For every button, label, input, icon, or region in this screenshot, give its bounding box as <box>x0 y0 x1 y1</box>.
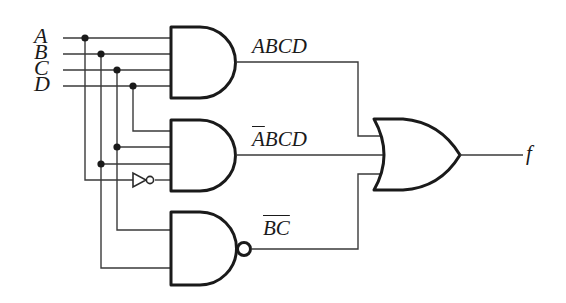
output-label-f: f <box>526 143 532 164</box>
overbar-a: A <box>252 127 265 151</box>
junction-dot <box>113 143 120 150</box>
junction-dot <box>81 34 88 41</box>
wire-c-branch <box>117 70 171 230</box>
junction-dot <box>97 50 104 57</box>
not-gate <box>133 173 154 187</box>
gate-output-wires <box>236 62 387 249</box>
input-label-d: D <box>34 73 50 95</box>
term-label-not-bc: BC <box>263 218 290 239</box>
wire-abcd <box>236 62 384 136</box>
inverter-triangle <box>133 173 146 187</box>
and-gate-middle <box>171 120 235 191</box>
and-gate-top <box>171 27 236 98</box>
term-rest-bcd: BCD <box>265 127 307 151</box>
wire-d-branch <box>133 86 171 131</box>
nand-gate-bottom <box>171 212 237 285</box>
branch-wires <box>85 38 171 268</box>
wire-a-branch <box>85 38 133 180</box>
junction-dot <box>129 82 136 89</box>
term-label-abcd: ABCD <box>252 36 307 57</box>
or-gate <box>374 119 460 190</box>
inverter-bubble <box>146 176 153 183</box>
junction-dot <box>97 160 104 167</box>
junction-dot <box>113 66 120 73</box>
term-label-not-a-bcd: ABCD <box>252 129 307 150</box>
nand-bubble <box>238 243 251 256</box>
